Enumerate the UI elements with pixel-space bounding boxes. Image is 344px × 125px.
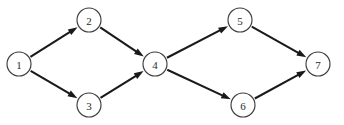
arrowhead-icon [68,27,78,35]
node-label: 1 [16,59,22,71]
graph-diagram: 1234567 [0,0,344,125]
edge-line [255,74,300,99]
nodes-layer: 1234567 [7,8,330,117]
node-label: 6 [240,100,246,112]
graph-node-5[interactable]: 5 [228,8,252,32]
edge-line [167,70,224,97]
edge-1-to-2 [30,27,77,57]
edge-line [167,29,222,57]
graph-node-7[interactable]: 7 [306,52,330,76]
edge-5-to-7 [252,27,306,58]
arrowhead-icon [296,70,306,77]
edge-line [100,27,138,52]
graph-node-6[interactable]: 6 [231,93,255,117]
edge-line [30,31,71,57]
arrowhead-icon [221,92,231,99]
node-label: 2 [86,15,92,27]
arrowhead-icon [296,50,306,58]
arrowhead-icon [218,26,228,33]
edges-layer [30,26,306,99]
node-label: 7 [315,59,321,71]
graph-node-4[interactable]: 4 [143,52,167,76]
graph-canvas: 1234567 [0,0,344,125]
arrowhead-icon [134,49,144,57]
node-label: 5 [237,15,243,27]
arrowhead-icon [67,91,77,99]
edge-6-to-7 [255,70,306,98]
edge-4-to-5 [167,26,228,58]
node-label: 3 [86,100,92,112]
edge-3-to-4 [100,71,143,98]
edge-line [100,75,137,98]
edge-line [252,27,300,54]
node-label: 4 [152,59,158,71]
graph-node-2[interactable]: 2 [77,8,101,32]
arrowhead-icon [134,71,144,79]
edge-2-to-4 [100,27,144,56]
graph-node-3[interactable]: 3 [77,93,101,117]
graph-node-1[interactable]: 1 [7,52,31,76]
edge-4-to-6 [167,70,231,100]
edge-1-to-3 [31,71,78,98]
edge-line [31,71,72,95]
